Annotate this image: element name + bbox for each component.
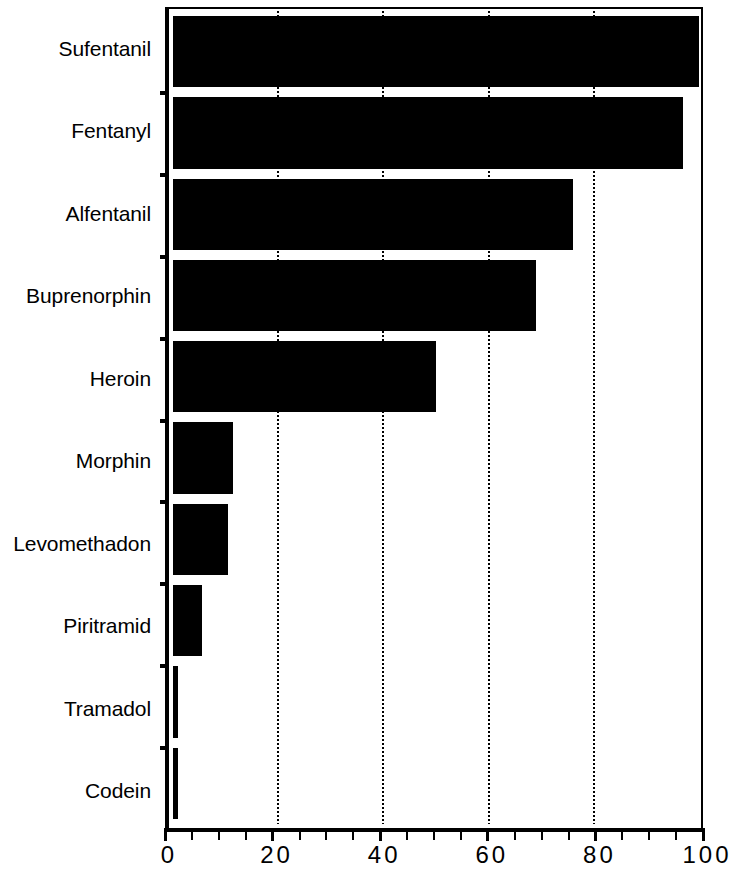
bar[interactable]	[173, 179, 573, 250]
bar[interactable]	[173, 748, 178, 819]
bar[interactable]	[173, 341, 436, 412]
x-axis-tick-minor	[568, 832, 570, 840]
bar-row	[173, 417, 699, 498]
bar-row	[173, 336, 699, 417]
x-axis-tick-label: 40	[368, 843, 401, 867]
category-label: Heroin	[0, 337, 158, 420]
category-label: Levomethadon	[0, 502, 158, 585]
category-axis-labels: SufentanilFentanylAlfentanilBuprenorphin…	[0, 7, 158, 832]
bar-row	[173, 174, 699, 255]
x-axis-tick-minor	[675, 832, 677, 840]
x-axis-tick-major	[702, 828, 705, 841]
category-label: Codein	[0, 750, 158, 833]
bar[interactable]	[173, 16, 699, 87]
x-axis-tick-major	[486, 828, 489, 841]
x-axis-tick-minor	[541, 832, 543, 840]
bar-row	[173, 580, 699, 661]
y-axis-tick	[160, 582, 169, 586]
x-axis-tick-label: 20	[260, 843, 293, 867]
x-axis-tick-minor	[514, 832, 516, 840]
x-axis-tick-minor	[325, 832, 327, 840]
category-label: Piritramid	[0, 585, 158, 668]
category-label: Buprenorphin	[0, 255, 158, 338]
x-axis-tick-minor	[218, 832, 220, 840]
bar[interactable]	[173, 422, 233, 493]
category-label: Sufentanil	[0, 7, 158, 90]
y-axis-tick	[160, 91, 169, 95]
x-axis-tick-minor	[460, 832, 462, 840]
x-axis-tick-major	[379, 828, 382, 841]
x-axis-tick-label: 100	[682, 843, 731, 867]
category-label: Morphin	[0, 420, 158, 503]
plot-inner	[173, 11, 699, 824]
bar[interactable]	[173, 97, 683, 168]
x-axis-tick-label: 80	[583, 843, 616, 867]
category-label: Fentanyl	[0, 90, 158, 173]
y-axis-tick	[160, 419, 169, 423]
x-axis-tick-minor	[245, 832, 247, 840]
x-axis-tick-major	[594, 828, 597, 841]
y-axis-tick	[160, 664, 169, 668]
x-axis-tick-minor	[299, 832, 301, 840]
x-axis-tick-major	[164, 828, 167, 841]
y-axis-tick	[160, 500, 169, 504]
x-axis: 020406080100	[161, 828, 707, 878]
bar-row	[173, 92, 699, 173]
x-axis-tick-label: 0	[161, 843, 177, 867]
category-label: Tramadol	[0, 667, 158, 750]
x-axis-tick-label: 60	[475, 843, 508, 867]
bar-row	[173, 743, 699, 824]
x-axis-tick-minor	[352, 832, 354, 840]
x-axis-tick-minor	[433, 832, 435, 840]
bar-row	[173, 255, 699, 336]
category-label: Alfentanil	[0, 172, 158, 255]
bar-row	[173, 661, 699, 742]
bar[interactable]	[173, 260, 536, 331]
x-axis-tick-major	[271, 828, 274, 841]
bar-row	[173, 11, 699, 92]
bar-row	[173, 499, 699, 580]
x-axis-tick-minor	[648, 832, 650, 840]
bar[interactable]	[173, 666, 178, 737]
x-axis-tick-minor	[191, 832, 193, 840]
x-axis-tick-minor	[621, 832, 623, 840]
y-axis-tick	[160, 746, 169, 750]
plot-area	[165, 7, 703, 832]
bar[interactable]	[173, 504, 228, 575]
y-axis-tick	[160, 337, 169, 341]
x-axis-tick-minor	[406, 832, 408, 840]
y-axis-tick	[160, 255, 169, 259]
y-axis-tick	[160, 173, 169, 177]
bar[interactable]	[173, 585, 202, 656]
bar-series	[173, 11, 699, 824]
